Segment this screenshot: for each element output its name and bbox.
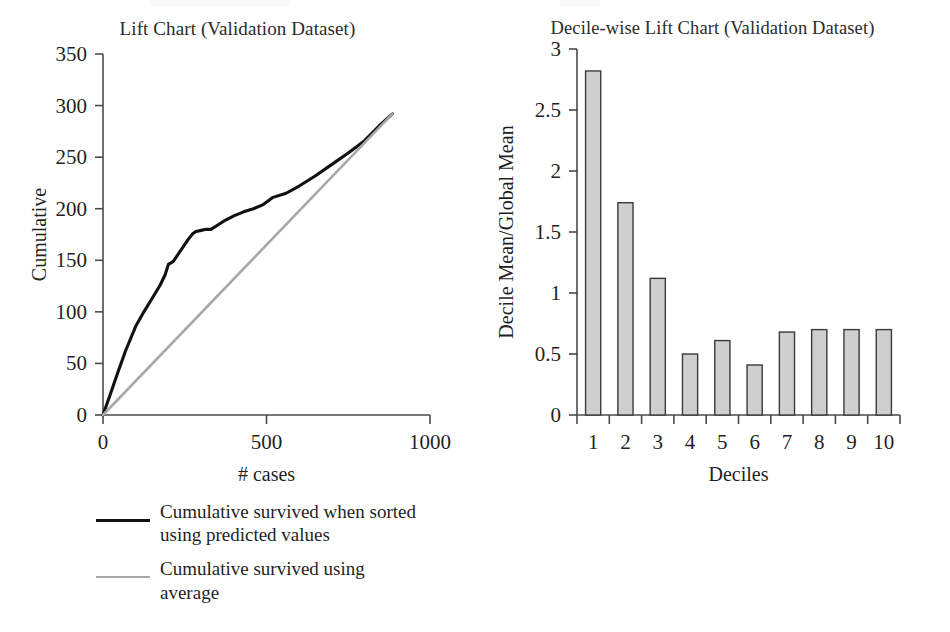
y-tick-label-left: 0 <box>77 403 88 427</box>
y-tick-label-right: 2.5 <box>535 98 561 122</box>
lift-chart-legend: Cumulative survived when sorted using pr… <box>96 500 426 615</box>
x-tick-label-right: 7 <box>782 430 793 454</box>
legend-item-predicted: Cumulative survived when sorted using pr… <box>96 500 426 546</box>
y-tick-label-left: 250 <box>56 145 88 169</box>
line-series-average <box>103 114 392 415</box>
x-axis-title-left: # cases <box>238 463 295 485</box>
y-tick-label-left: 200 <box>56 197 88 221</box>
bar-decile-2 <box>618 203 633 415</box>
x-tick-label-left: 0 <box>98 430 109 454</box>
x-tick-label-right: 1 <box>588 430 599 454</box>
y-tick-label-right: 1 <box>551 281 562 305</box>
x-tick-label-right: 5 <box>717 430 728 454</box>
decile-lift-chart-svg: 00.511.522.5312345678910DecilesDecile Me… <box>475 0 950 632</box>
legend-line-swatch-average-icon <box>96 566 150 586</box>
y-tick-label-left: 50 <box>66 351 87 375</box>
x-tick-label-right: 3 <box>653 430 664 454</box>
bar-decile-5 <box>715 341 730 415</box>
bar-decile-4 <box>682 354 697 415</box>
x-tick-label-right: 8 <box>814 430 825 454</box>
legend-line-swatch-predicted-icon <box>96 509 150 529</box>
x-tick-label-right: 4 <box>685 430 696 454</box>
x-tick-label-right: 9 <box>846 430 857 454</box>
bar-decile-1 <box>586 71 601 415</box>
y-tick-label-left: 300 <box>56 94 88 118</box>
legend-item-average: Cumulative survived using average <box>96 557 426 603</box>
bar-decile-8 <box>812 330 827 415</box>
x-tick-label-right: 6 <box>749 430 760 454</box>
y-tick-label-left: 100 <box>56 300 88 324</box>
bar-decile-6 <box>747 365 762 415</box>
x-tick-label-left: 1000 <box>409 430 451 454</box>
y-tick-label-right: 0 <box>551 403 562 427</box>
y-tick-label-right: 2 <box>551 159 562 183</box>
legend-label-predicted: Cumulative survived when sorted using pr… <box>160 500 422 546</box>
bar-decile-9 <box>844 330 859 415</box>
x-tick-label-left: 500 <box>251 430 283 454</box>
x-axis-title-right: Deciles <box>709 463 769 485</box>
y-tick-label-left: 350 <box>56 42 88 66</box>
y-tick-label-right: 1.5 <box>535 220 561 244</box>
bar-decile-7 <box>779 332 794 415</box>
legend-label-average: Cumulative survived using average <box>160 557 422 603</box>
bar-decile-3 <box>650 278 665 415</box>
lift-chart-panel: Lift Chart (Validation Dataset) 05010015… <box>0 0 475 632</box>
y-tick-label-right: 3 <box>551 37 562 61</box>
decile-lift-chart-panel: Decile-wise Lift Chart (Validation Datas… <box>475 0 950 632</box>
x-tick-label-right: 10 <box>873 430 894 454</box>
y-tick-label-left: 150 <box>56 248 88 272</box>
y-axis-title-left: Cumulative <box>28 188 50 281</box>
figure-canvas: Lift Chart (Validation Dataset) 05010015… <box>0 0 950 632</box>
bar-decile-10 <box>876 330 891 415</box>
y-axis-title-right: Decile Mean/Global Mean <box>495 125 517 338</box>
x-tick-label-right: 2 <box>620 430 631 454</box>
y-tick-label-right: 0.5 <box>535 342 561 366</box>
